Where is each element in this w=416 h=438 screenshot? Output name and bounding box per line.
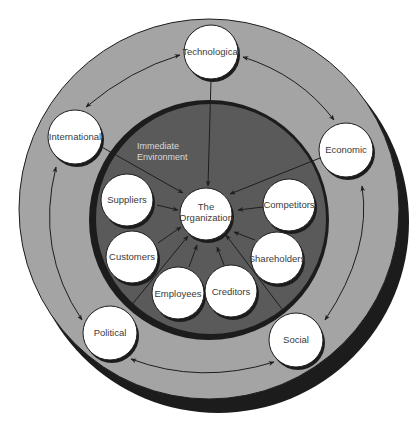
svg-text:Political: Political — [94, 327, 127, 338]
svg-text:Customers: Customers — [109, 251, 155, 262]
svg-text:Competitors: Competitors — [263, 199, 314, 210]
svg-text:Suppliers: Suppliers — [107, 194, 147, 205]
organization-environment-diagram: Immediate Environment Technological Econ… — [0, 0, 416, 438]
immediate-environment-label: Immediate — [137, 141, 179, 151]
svg-text:Organization: Organization — [179, 212, 233, 223]
svg-text:The: The — [198, 201, 214, 212]
svg-text:Economic: Economic — [325, 144, 367, 155]
svg-text:Shareholders: Shareholders — [249, 253, 306, 264]
svg-text:International: International — [49, 131, 101, 142]
svg-text:Employees: Employees — [155, 288, 202, 299]
svg-text:Social: Social — [283, 334, 309, 345]
svg-text:Technological: Technological — [182, 46, 240, 57]
svg-text:Creditors: Creditors — [212, 286, 251, 297]
immediate-environment-label-2: Environment — [137, 152, 188, 162]
